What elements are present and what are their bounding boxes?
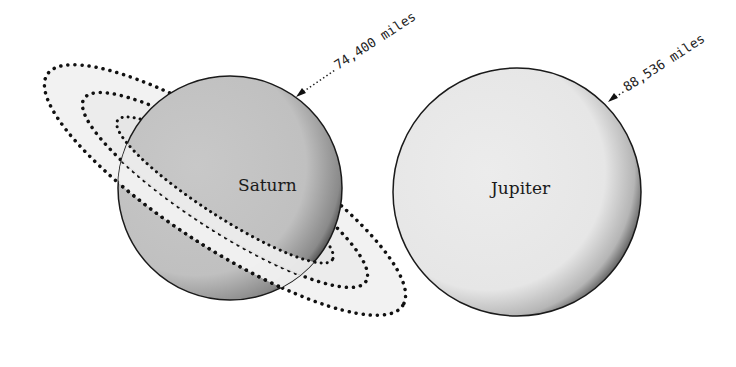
- jupiter-diameter-label: 88,536 miles: [620, 31, 707, 95]
- jupiter: Jupiter: [393, 68, 641, 316]
- planet-comparison-diagram: Saturn 74,400 miles Jupiter 88,536 miles: [0, 0, 736, 367]
- saturn-diameter-label: 74,400 miles: [331, 9, 418, 73]
- arrow-icon: [296, 88, 306, 97]
- saturn: Saturn: [16, 26, 435, 354]
- jupiter-diameter-annotation: 88,536 miles: [608, 31, 707, 102]
- saturn-label: Saturn: [238, 175, 297, 195]
- saturn-diameter-annotation: 74,400 miles: [296, 9, 418, 97]
- arrow-icon: [608, 93, 618, 102]
- jupiter-label: Jupiter: [489, 178, 551, 198]
